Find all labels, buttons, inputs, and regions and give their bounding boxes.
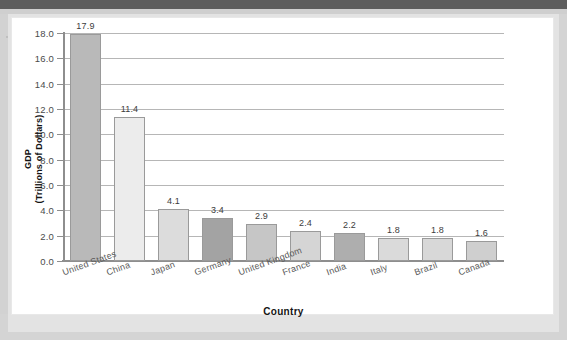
y-axis-tick-label: 2.0 (22, 230, 54, 241)
gridline (63, 58, 504, 59)
bar (334, 233, 365, 261)
x-axis-category-label: Italy (369, 262, 389, 277)
bar (114, 117, 145, 261)
bar-chart: 0.02.04.06.08.010.012.014.016.018.0 17.9… (0, 0, 567, 340)
x-axis-category-label: China (105, 260, 131, 278)
y-axis-title: GDP (Trillions of Dollars) (23, 89, 45, 229)
y-axis-title-line2: (Trillions of Dollars) (34, 115, 44, 204)
y-axis-tick-label: 16.0 (22, 53, 54, 64)
y-axis-title-line1: GDP (23, 149, 33, 169)
bar-value-label: 1.6 (454, 228, 509, 238)
gridline (63, 33, 504, 34)
bar (70, 34, 101, 261)
y-axis-tick-label: 0.0 (22, 256, 54, 267)
y-axis-line (63, 32, 65, 262)
bar (158, 209, 189, 261)
bar-value-label: 11.4 (102, 104, 157, 114)
y-axis-tick-label: 18.0 (22, 28, 54, 39)
gridline (63, 84, 504, 85)
x-axis-category-label: Brazil (413, 260, 439, 278)
y-axis-tick-label: 14.0 (22, 78, 54, 89)
x-axis-title: Country (0, 306, 567, 317)
bar (422, 238, 453, 261)
bar-value-label: 17.9 (58, 21, 113, 31)
bar (378, 238, 409, 261)
x-axis-category-label: India (325, 261, 348, 277)
